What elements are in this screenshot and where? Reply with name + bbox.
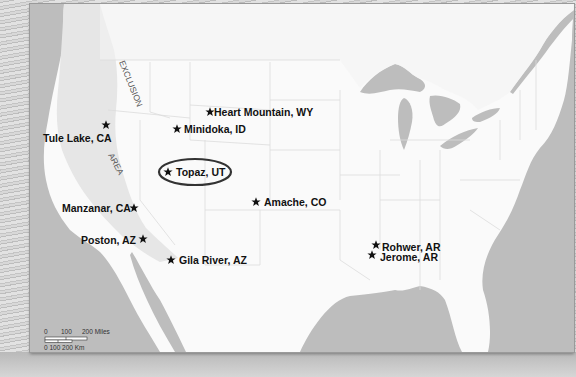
svg-text:Topaz, UT: Topaz, UT	[176, 166, 226, 178]
camp-manzanar[interactable]: Manzanar, CA	[62, 202, 139, 214]
svg-text:200 Miles: 200 Miles	[82, 328, 111, 335]
svg-text:Amache, CO: Amache, CO	[264, 196, 326, 208]
map-canvas: EXCLUSION AREA Heart Mountain, WY Minido…	[0, 0, 576, 377]
camp-heart-mountain[interactable]: Heart Mountain, WY	[205, 106, 313, 118]
svg-text:Tule Lake, CA: Tule Lake, CA	[43, 132, 112, 144]
svg-text:100: 100	[61, 328, 72, 335]
svg-text:Heart Mountain, WY: Heart Mountain, WY	[214, 106, 313, 118]
svg-text:Minidoka, ID: Minidoka, ID	[184, 123, 246, 135]
svg-text:Poston, AZ: Poston, AZ	[81, 234, 137, 246]
camp-minidoka[interactable]: Minidoka, ID	[172, 123, 246, 135]
svg-text:Gila River, AZ: Gila River, AZ	[179, 254, 247, 266]
svg-text:Jerome, AR: Jerome, AR	[380, 251, 438, 263]
svg-text:Manzanar, CA: Manzanar, CA	[62, 202, 131, 214]
camp-gila-river[interactable]: Gila River, AZ	[166, 254, 247, 266]
svg-text:0 100 200 Km: 0 100 200 Km	[44, 344, 84, 351]
svg-text:0: 0	[44, 328, 48, 335]
